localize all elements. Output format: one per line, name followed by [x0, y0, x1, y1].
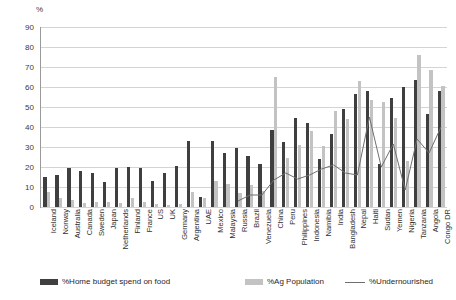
y-axis-tick-label: 40: [25, 123, 34, 132]
undernourished-line: [41, 27, 447, 207]
line-swatch: [345, 279, 365, 285]
x-axis-tick-label: Malaysia: [228, 179, 237, 209]
chart-legend: %Home budget spend on food%Ag Population…: [40, 277, 450, 293]
x-axis-tick-label: Sweden: [97, 182, 106, 209]
light-bar-swatch: [245, 279, 263, 285]
x-axis-tick-label: China: [276, 189, 285, 209]
x-axis-tick-label: Mexico: [216, 185, 225, 209]
y-axis-tick-label: 60: [25, 83, 34, 92]
x-axis-tick-label: Russia: [240, 186, 249, 209]
x-axis-tick-label: US: [156, 199, 165, 209]
x-axis-tick-label: France: [145, 186, 154, 209]
y-axis-tick-label: 0: [30, 203, 34, 212]
x-axis-tick-label: Finland: [133, 184, 142, 209]
x-axis-tick-label: Yemen: [395, 186, 404, 209]
x-axis-tick-label: Congo DR: [443, 174, 452, 209]
x-axis-tick-label: Bangladesh: [348, 169, 357, 209]
legend-item[interactable]: %Home budget spend on food: [40, 277, 170, 286]
y-axis-tick-label: 30: [25, 143, 34, 152]
x-axis-tick-label: Netherlands: [121, 169, 130, 209]
x-axis-tick-label: Nigeria: [407, 185, 416, 209]
dark-bar-swatch: [40, 279, 58, 285]
legend-item[interactable]: %Undernourished: [345, 277, 433, 286]
x-axis-tick-label: Peru: [288, 193, 297, 209]
y-axis-tick-label: 70: [25, 63, 34, 72]
x-axis-tick-labels: IcelandNorwayAustraliaCanadaSwedenJapanN…: [40, 209, 446, 271]
y-axis-tick-label: 50: [25, 103, 34, 112]
x-axis-tick-label: Brazil: [252, 190, 261, 209]
y-axis-unit-label: %: [36, 5, 43, 14]
x-axis-tick-label: India: [336, 193, 345, 209]
x-axis-tick-label: Venezuela: [264, 174, 273, 209]
x-axis-tick-label: Nepal: [359, 189, 368, 209]
x-axis-tick-label: Tanzania: [419, 179, 428, 209]
legend-item[interactable]: %Ag Population: [245, 277, 324, 286]
x-axis-tick-label: Angola: [431, 186, 440, 209]
x-axis-tick-label: Canada: [85, 183, 94, 209]
x-axis-tick-label: Indonesia: [312, 176, 321, 209]
y-axis-tick-label: 80: [25, 43, 34, 52]
x-axis-tick-label: Namibia: [324, 181, 333, 209]
y-axis-tick-label: 20: [25, 163, 34, 172]
y-axis-tick-label: 90: [25, 23, 34, 32]
x-axis-tick-label: Philippines: [300, 173, 309, 209]
x-axis-tick-label: Sudan: [383, 187, 392, 209]
legend-label: %Undernourished: [369, 277, 433, 286]
x-axis-tick-label: Germany: [180, 178, 189, 209]
chart-container: % 0102030405060708090 IcelandNorwayAustr…: [0, 0, 456, 300]
x-axis-tick-label: Argentina: [192, 177, 201, 209]
x-axis-tick-label: UAE: [204, 194, 213, 209]
x-axis-tick-label: Norway: [61, 184, 70, 209]
legend-label: %Ag Population: [267, 277, 324, 286]
y-axis-tick-labels: 0102030405060708090: [0, 27, 38, 207]
x-axis-tick-label: Japan: [109, 189, 118, 209]
x-axis-tick-label: UK: [168, 199, 177, 209]
plot-area: [40, 27, 447, 208]
x-axis-tick-label: Australia: [73, 180, 82, 209]
x-axis-tick-label: Iceland: [49, 185, 58, 209]
legend-label: %Home budget spend on food: [62, 277, 170, 286]
y-axis-tick-label: 10: [25, 183, 34, 192]
x-axis-tick-label: Haiti: [371, 194, 380, 209]
